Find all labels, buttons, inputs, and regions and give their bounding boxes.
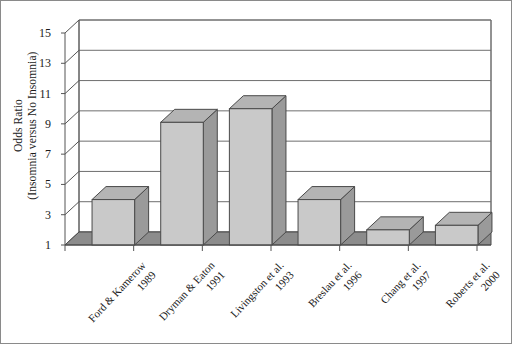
x-axis-tick-labels: Ford & Kamerow1989Dryman & Eaton1991Livi… <box>53 253 493 344</box>
x-tick-3: Livingston et al.1993 <box>228 259 297 330</box>
bar-2 <box>161 109 218 245</box>
y-axis-title-line1: Odds Ratio <box>11 52 25 200</box>
y-tick-11: 11 <box>31 88 51 100</box>
x-tick-4: Breslau et al.1996 <box>306 259 365 320</box>
y-tick-5: 5 <box>31 178 51 190</box>
plot-area <box>53 15 493 267</box>
bar-chart-graphic <box>53 15 493 267</box>
bar-4 <box>298 187 355 245</box>
bar-1 <box>92 187 149 245</box>
bar-6 <box>435 212 492 245</box>
y-tick-3: 3 <box>31 209 51 221</box>
x-tick-5: Chang et al.1997 <box>378 259 434 316</box>
x-tick-6: Roberts et al.2000 <box>443 259 503 320</box>
bar-3 <box>229 96 286 245</box>
chart-figure: Odds Ratio (Insomnia versus No Insomnia)… <box>0 0 512 344</box>
y-axis-tick-labels: 15131197531 <box>27 1 51 344</box>
y-tick-15: 15 <box>31 27 51 39</box>
x-tick-1: Ford & Kamerow1989 <box>86 259 159 335</box>
y-tick-9: 9 <box>31 118 51 130</box>
x-tick-2: Dryman & Eaton1991 <box>156 259 228 333</box>
y-tick-13: 13 <box>31 57 51 69</box>
y-tick-1: 1 <box>31 239 51 251</box>
y-tick-7: 7 <box>31 148 51 160</box>
